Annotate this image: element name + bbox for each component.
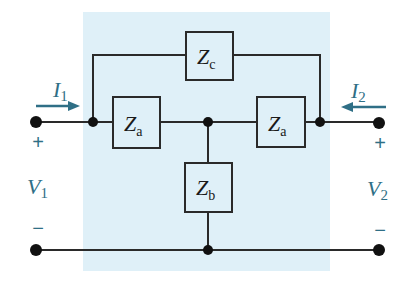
za-right-box xyxy=(257,97,305,147)
v2-label: V2 xyxy=(367,176,388,203)
input-terminal-bottom xyxy=(30,244,42,256)
node-left xyxy=(88,117,98,127)
node-center xyxy=(203,117,213,127)
zc-box xyxy=(186,32,233,80)
za-left-box xyxy=(113,97,160,148)
v2-plus-sign: + xyxy=(374,132,386,154)
v1-label: V1 xyxy=(27,174,48,201)
v1-minus-sign: − xyxy=(32,217,44,239)
output-terminal-bottom xyxy=(373,244,385,256)
i2-label: I2 xyxy=(350,78,366,105)
v2-minus-sign: − xyxy=(374,219,386,241)
node-right xyxy=(315,117,325,127)
output-terminal-top xyxy=(373,117,385,129)
i1-arrow-head-icon xyxy=(68,101,80,111)
circuit-diagram: Zc Za Za Zb I1 I2 + − + − V1 V2 xyxy=(0,0,419,284)
i2-arrow-head-icon xyxy=(341,102,353,112)
v1-plus-sign: + xyxy=(32,131,44,153)
i1-label: I1 xyxy=(52,77,68,104)
node-ground xyxy=(203,245,213,255)
input-terminal-top xyxy=(30,116,42,128)
